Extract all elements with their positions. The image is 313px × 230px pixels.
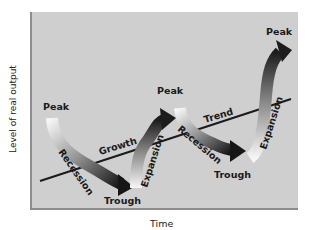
peak-label-3: Peak xyxy=(266,26,293,37)
business-cycle-diagram: Peak Peak Peak Trough Trough Growth Tren… xyxy=(0,0,313,230)
peak-label-2: Peak xyxy=(157,85,184,96)
growth-label: Growth xyxy=(97,135,138,157)
trough-label-2: Trough xyxy=(214,169,251,180)
trough-label-1: Trough xyxy=(104,195,141,206)
peak-label-1: Peak xyxy=(43,101,70,112)
